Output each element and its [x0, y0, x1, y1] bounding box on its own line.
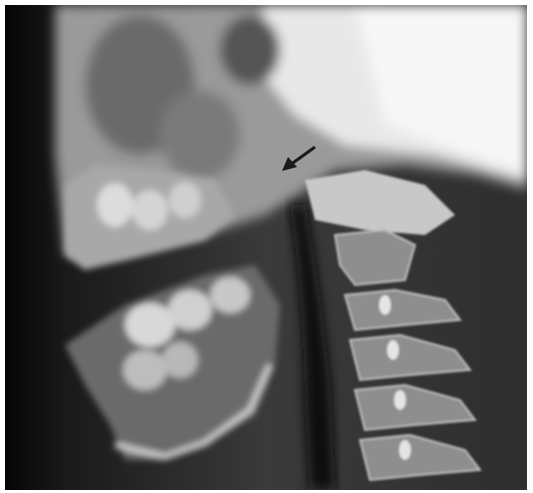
- xray-image: [5, 5, 527, 490]
- xray-illustration: [5, 5, 527, 490]
